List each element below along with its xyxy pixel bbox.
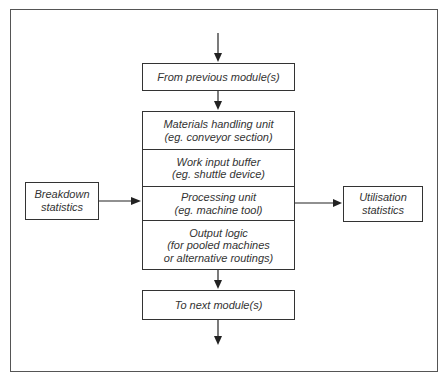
from-previous-module-label: From previous module(s)	[157, 71, 279, 84]
to-next-module-label: To next module(s)	[175, 299, 263, 312]
utilisation-statistics-line-2: statistics	[362, 204, 404, 217]
output-logic-title: Output logic	[189, 227, 248, 240]
from-previous-module-box: From previous module(s)	[142, 63, 295, 91]
to-next-module-box: To next module(s)	[142, 290, 295, 320]
module-stack: Materials handling unit (eg. conveyor se…	[142, 111, 295, 270]
breakdown-statistics-line-1: Breakdown	[34, 188, 89, 201]
materials-handling-unit-title: Materials handling unit	[163, 118, 273, 131]
processing-unit-title: Processing unit	[181, 191, 256, 204]
utilisation-statistics-line-1: Utilisation	[359, 191, 407, 204]
materials-handling-unit-cell: Materials handling unit (eg. conveyor se…	[143, 112, 294, 149]
work-input-buffer-title: Work input buffer	[177, 156, 261, 169]
output-logic-detail-2: or alternative routings)	[164, 252, 273, 265]
output-logic-cell: Output logic (for pooled machines or alt…	[143, 220, 294, 270]
work-input-buffer-cell: Work input buffer (eg. shuttle device)	[143, 149, 294, 186]
materials-handling-unit-example: (eg. conveyor section)	[164, 131, 272, 144]
work-input-buffer-example: (eg. shuttle device)	[172, 168, 265, 181]
breakdown-statistics-box: Breakdown statistics	[25, 182, 99, 220]
processing-unit-example: (eg. machine tool)	[174, 204, 262, 217]
utilisation-statistics-box: Utilisation statistics	[343, 186, 423, 222]
processing-unit-cell: Processing unit (eg. machine tool)	[143, 186, 294, 220]
breakdown-statistics-line-2: statistics	[41, 201, 83, 214]
output-logic-detail-1: (for pooled machines	[167, 239, 270, 252]
